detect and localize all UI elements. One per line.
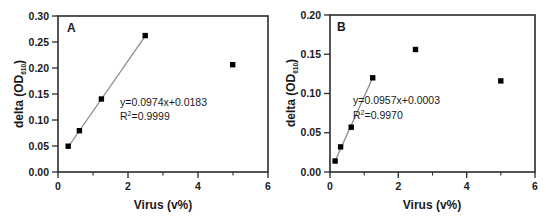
data-point bbox=[332, 158, 337, 163]
svg-text:delta (OD610): delta (OD610) bbox=[12, 60, 27, 128]
chart-panel-b: 0.00 0.05 0.10 0.15 0.20 0 2 4 bbox=[273, 0, 546, 217]
y-tick-label: 0.15 bbox=[29, 88, 50, 100]
r-squared-value: =0.9999 bbox=[132, 110, 170, 122]
data-point bbox=[370, 75, 375, 80]
x-axis-tick-labels-a: 0 2 4 6 bbox=[55, 180, 271, 192]
panel-letter-b: B bbox=[337, 20, 346, 34]
x-axis-title-a: Virus (v%) bbox=[134, 198, 192, 212]
equation-annotation-a: y=0.0974x+0.0183 bbox=[120, 96, 207, 108]
x-tick-label: 6 bbox=[532, 180, 538, 192]
data-point bbox=[143, 33, 148, 38]
y-axis-tick-labels-b: 0.00 0.05 0.10 0.15 0.20 bbox=[301, 9, 322, 178]
y-axis-title-subscript: 610 bbox=[292, 63, 299, 74]
y-axis-title-close: ) bbox=[12, 60, 26, 64]
y-tick-label: 0.10 bbox=[301, 87, 322, 99]
data-point bbox=[349, 125, 354, 130]
figure-two-panel-scatter: 0.00 0.05 0.10 0.15 0.20 0.25 0.30 0 bbox=[0, 0, 546, 217]
r-squared-annotation-a: R2=0.9999 bbox=[120, 110, 170, 122]
x-tick-label: 0 bbox=[327, 180, 333, 192]
y-tick-label: 0.20 bbox=[29, 62, 50, 74]
panel-a-svg: 0.00 0.05 0.10 0.15 0.20 0.25 0.30 0 bbox=[0, 0, 273, 217]
y-axis-title-a: delta (OD610) bbox=[12, 60, 27, 128]
x-tick-label: 6 bbox=[265, 180, 271, 192]
chart-panel-a: 0.00 0.05 0.10 0.15 0.20 0.25 0.30 0 bbox=[0, 0, 273, 217]
data-point bbox=[66, 144, 71, 149]
x-axis-ticks-b bbox=[330, 172, 535, 178]
svg-text:delta (OD610): delta (OD610) bbox=[284, 59, 299, 127]
plot-frame-a bbox=[58, 16, 268, 172]
x-tick-label: 2 bbox=[125, 180, 131, 192]
data-point bbox=[413, 47, 418, 52]
y-tick-label: 0.15 bbox=[301, 48, 322, 60]
y-tick-label: 0.20 bbox=[301, 9, 322, 21]
y-axis-title-main: delta (OD bbox=[284, 73, 298, 127]
y-axis-ticks-a bbox=[52, 16, 58, 172]
data-series-a bbox=[66, 33, 236, 149]
r-squared-value: =0.9970 bbox=[365, 109, 403, 121]
y-axis-title-main: delta (OD bbox=[12, 74, 26, 128]
y-axis-title-b: delta (OD610) bbox=[284, 59, 299, 127]
data-point bbox=[230, 62, 235, 67]
y-axis-title-close: ) bbox=[284, 59, 298, 63]
y-tick-label: 0.05 bbox=[301, 126, 322, 138]
x-axis-ticks-a bbox=[58, 172, 268, 178]
r-squared-annotation-b: R2=0.9970 bbox=[353, 109, 403, 121]
y-axis-ticks-b bbox=[324, 15, 330, 172]
x-axis-title-b: Virus (v%) bbox=[403, 198, 461, 212]
x-tick-label: 2 bbox=[395, 180, 401, 192]
y-axis-title-subscript: 610 bbox=[20, 64, 27, 75]
data-point bbox=[77, 128, 82, 133]
x-tick-label: 0 bbox=[55, 180, 61, 192]
panel-letter-a: A bbox=[67, 21, 76, 35]
data-point bbox=[338, 144, 343, 149]
y-tick-label: 0.00 bbox=[301, 166, 322, 178]
y-tick-label: 0.30 bbox=[29, 10, 50, 22]
y-tick-label: 0.05 bbox=[29, 140, 50, 152]
x-axis-tick-labels-b: 0 2 4 6 bbox=[327, 180, 538, 192]
x-tick-label: 4 bbox=[464, 180, 470, 192]
y-tick-label: 0.10 bbox=[29, 114, 50, 126]
y-tick-label: 0.00 bbox=[29, 166, 50, 178]
y-axis-tick-labels-a: 0.00 0.05 0.10 0.15 0.20 0.25 0.30 bbox=[29, 10, 50, 178]
panel-b-svg: 0.00 0.05 0.10 0.15 0.20 0 2 4 bbox=[273, 0, 546, 217]
equation-annotation-b: y=0.0957x+0.0003 bbox=[353, 94, 440, 106]
data-point bbox=[498, 78, 503, 83]
x-tick-label: 4 bbox=[195, 180, 201, 192]
data-point bbox=[99, 96, 104, 101]
y-tick-label: 0.25 bbox=[29, 36, 50, 48]
